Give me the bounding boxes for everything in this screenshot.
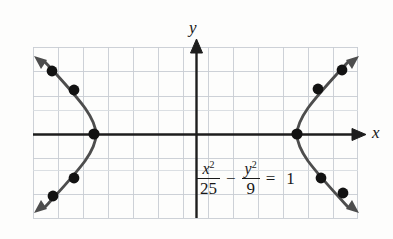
numerator-x-exponent: 2 xyxy=(210,159,215,170)
numerator-y-variable: y xyxy=(245,160,252,177)
left-lower-arrow xyxy=(34,200,47,213)
point-left-lower-2 xyxy=(48,191,59,202)
point-right-upper-1 xyxy=(313,84,324,95)
equation-annotation: x2 25 − y2 9 = 1 xyxy=(196,160,295,197)
point-right-lower-2 xyxy=(338,188,349,199)
numerator-x-squared: x2 xyxy=(199,160,217,178)
equals-sign: = xyxy=(266,169,276,189)
y-axis-label: y xyxy=(189,18,197,38)
numerator-y-squared: y2 xyxy=(242,160,260,178)
fraction-y-squared-over-9: y2 9 xyxy=(242,160,260,197)
numerator-x-variable: x xyxy=(202,160,209,177)
point-vertex-left xyxy=(88,128,99,139)
denominator-9: 9 xyxy=(243,179,258,197)
point-right-lower-1 xyxy=(316,173,327,184)
point-left-lower-1 xyxy=(69,173,80,184)
denominator-25: 25 xyxy=(197,179,220,197)
equation-right-side: 1 xyxy=(286,169,295,189)
point-left-upper-2 xyxy=(47,66,58,77)
left-upper-arrow xyxy=(34,56,47,69)
y-axis-arrowhead xyxy=(191,39,203,53)
x-axis-label: x xyxy=(372,123,380,143)
fraction-x-squared-over-25: x2 25 xyxy=(197,160,220,197)
x-axis-arrowhead xyxy=(352,129,366,141)
numerator-y-exponent: 2 xyxy=(252,159,257,170)
point-vertex-right xyxy=(291,128,302,139)
hyperbola-figure: y x x2 25 − y2 9 = 1 xyxy=(0,0,393,239)
point-left-upper-1 xyxy=(69,85,80,96)
minus-operator: − xyxy=(226,169,236,189)
point-right-upper-2 xyxy=(337,65,348,76)
